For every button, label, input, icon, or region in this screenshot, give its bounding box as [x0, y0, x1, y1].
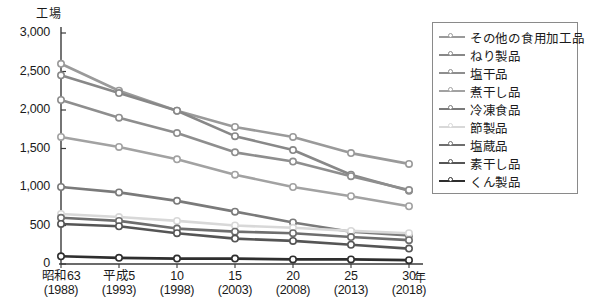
x-tick-label: 30(2018) — [372, 269, 446, 297]
legend-line-marker-icon — [439, 50, 465, 61]
legend-item-2[interactable]: 塩干品 — [439, 64, 573, 82]
legend-line-marker-icon — [439, 32, 465, 43]
legend-line-marker-icon — [439, 176, 465, 187]
legend-line-marker-icon — [439, 86, 465, 97]
legend-item-6[interactable]: 塩蔵品 — [439, 136, 573, 154]
legend-item-label: 節製品 — [470, 118, 508, 137]
legend-line-marker-icon — [439, 68, 465, 79]
x-tick-era: 30 — [372, 269, 446, 283]
legend-line-marker-icon — [439, 122, 465, 133]
line-chart: 工場 05001,0001,5002,0002,5003,000 昭和63(19… — [0, 0, 589, 301]
legend-item-label: 素干し品 — [470, 154, 521, 173]
legend-item-label: 塩蔵品 — [470, 136, 508, 155]
legend-item-label: 冷凍食品 — [470, 100, 521, 119]
legend-item-0[interactable]: その他の食用加工品 — [439, 28, 573, 46]
legend-item-1[interactable]: ねり製品 — [439, 46, 573, 64]
legend-line-marker-icon — [439, 104, 465, 115]
legend-item-label: その他の食用加工品 — [470, 28, 584, 47]
x-axis-unit-label: 年 — [414, 268, 426, 285]
legend-item-label: くん製品 — [470, 172, 521, 191]
legend-item-4[interactable]: 冷凍食品 — [439, 100, 573, 118]
legend-line-marker-icon — [439, 140, 465, 151]
series-8 — [58, 253, 412, 263]
legend-item-3[interactable]: 煮干し品 — [439, 82, 573, 100]
legend-line-marker-icon — [439, 158, 465, 169]
series-3 — [58, 134, 412, 210]
legend-item-label: 煮干し品 — [470, 82, 521, 101]
legend-item-label: ねり製品 — [470, 46, 521, 65]
x-tick-year: (2018) — [372, 283, 446, 297]
legend-item-8[interactable]: くん製品 — [439, 172, 573, 190]
legend-item-7[interactable]: 素干し品 — [439, 154, 573, 172]
legend-item-label: 塩干品 — [470, 64, 508, 83]
legend: その他の食用加工品ねり製品塩干品煮干し品冷凍食品節製品塩蔵品素干し品くん製品 — [432, 22, 578, 194]
legend-item-5[interactable]: 節製品 — [439, 118, 573, 136]
